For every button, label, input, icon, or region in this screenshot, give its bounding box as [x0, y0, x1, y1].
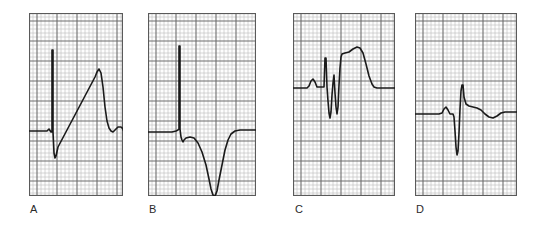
panel-b-label: B	[149, 204, 157, 215]
ecg-figure: ABCD	[0, 0, 541, 229]
panel-b	[148, 13, 256, 196]
panel-d-graph	[415, 13, 517, 196]
panel-c-graph	[293, 13, 395, 196]
panel-b-graph	[148, 13, 256, 196]
panel-c-label: C	[295, 204, 303, 215]
panel-d	[415, 13, 517, 196]
panel-a-label: A	[30, 204, 38, 215]
panel-a	[29, 13, 123, 196]
panel-c	[293, 13, 395, 196]
panel-d-label: D	[416, 204, 424, 215]
panel-a-graph	[29, 13, 123, 196]
